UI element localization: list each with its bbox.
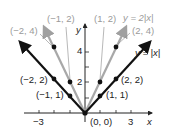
- label-curve-abs: y = |x|: [135, 48, 160, 58]
- axis-label-x: x: [147, 117, 152, 127]
- point-n2-2: [52, 77, 57, 82]
- label-pt-1-2: (1, 2): [94, 14, 116, 24]
- tick-label-y-4: 4: [77, 46, 82, 56]
- point-n1-2: [68, 80, 73, 85]
- label-pt-n2-2: (−2, 2): [20, 75, 48, 85]
- tick-label-x-3: 3: [128, 117, 133, 127]
- tick-label-x-neg3: −3: [33, 117, 44, 127]
- tick-label-y-2: 2: [77, 77, 82, 87]
- label-pt-n2-4: (−2, 4): [10, 26, 38, 36]
- point-2-2: [114, 77, 119, 82]
- point-1-1: [98, 94, 103, 99]
- label-pt-0-0: (0, 0): [90, 117, 112, 127]
- point-1-2: [98, 80, 103, 85]
- label-pt-1-1: (1, 1): [106, 90, 128, 100]
- label-pt-n1-1: (−1, 1): [36, 90, 64, 100]
- point-n2-4: [52, 45, 57, 50]
- point-2-4: [114, 45, 119, 50]
- label-pt-2-2: (2, 2): [121, 75, 143, 85]
- label-pt-2-4: (2, 4): [132, 26, 154, 36]
- label-pt-n1-2: (−1, 2): [47, 14, 75, 24]
- label-curve-2abs: y = 2|x|: [123, 13, 154, 23]
- point-n1-1: [68, 94, 73, 99]
- point-0-0: [82, 110, 87, 115]
- axis-label-y: y: [76, 25, 81, 35]
